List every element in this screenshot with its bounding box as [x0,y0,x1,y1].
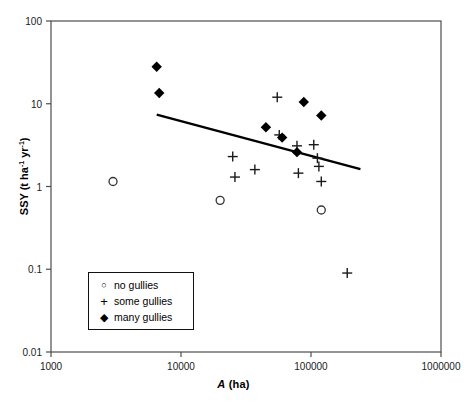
y-axis-title-sup2: -1 [18,141,25,147]
marker-plus [314,161,324,171]
marker-plus [309,140,319,150]
x-tick-label: 1000000 [422,361,461,372]
y-tick-label: 100 [0,16,42,27]
plot-area [0,0,467,403]
data-points [109,62,352,278]
series-no-gullies [109,177,325,214]
marker-filled-diamond [299,97,309,107]
marker-plus [312,153,322,163]
y-axis-title-suffix: ) [18,137,30,141]
marker-open-circle [109,177,117,185]
legend-item: ◆many gullies [97,309,193,325]
x-axis-title: A (ha) [0,378,467,390]
y-axis-title-sup1: -1 [18,161,25,167]
trendline [157,115,361,170]
marker-plus [272,92,282,102]
series-some-gullies [228,92,353,278]
series-many-gullies [151,62,326,158]
marker-filled-diamond [154,88,164,98]
legend: ○no gullies+some gullies◆many gullies [88,272,194,330]
marker-filled-diamond [151,62,161,72]
legend-marker-icon: ◆ [97,312,111,323]
marker-open-circle [216,196,224,204]
marker-filled-diamond [277,132,287,142]
marker-plus [316,176,326,186]
marker-plus [250,165,260,175]
legend-marker-icon: + [97,295,111,308]
x-tick-label: 10000 [167,361,195,372]
x-tick-label: 1000 [40,361,62,372]
x-tick-marks [51,352,441,357]
regression-line [157,115,361,170]
x-axis-title-unit: (ha) [225,378,249,390]
y-axis-title-prefix: SSY (t ha [18,167,30,215]
marker-filled-diamond [261,122,271,132]
marker-open-circle [317,206,325,214]
scatter-chart: 1001010.10.011000100001000001000000 A (h… [0,0,467,403]
y-tick-label: 0.01 [0,347,42,358]
legend-marker-icon: ○ [97,281,111,290]
marker-filled-diamond [292,147,302,157]
legend-item-label: many gullies [111,311,172,323]
x-tick-label: 100000 [294,361,327,372]
marker-plus [230,172,240,182]
y-tick-marks [46,21,51,352]
y-axis-title-mid: yr [18,147,30,160]
legend-item: ○no gullies [97,277,193,293]
legend-item: +some gullies [97,293,193,309]
marker-plus [228,152,238,162]
legend-item-label: no gullies [111,279,158,291]
y-axis-title: SSY (t ha-1 yr-1) [18,76,31,276]
legend-item-label: some gullies [111,295,172,307]
marker-plus [342,268,352,278]
marker-filled-diamond [316,110,326,120]
marker-plus [293,168,303,178]
